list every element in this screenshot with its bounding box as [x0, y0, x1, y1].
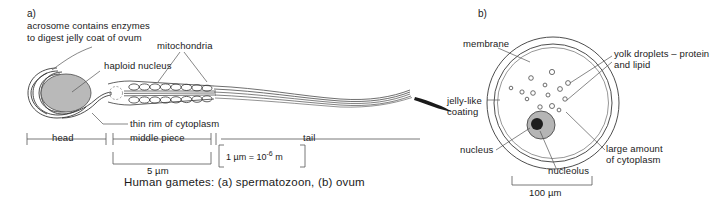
five-micrometre-scale-bar: [113, 152, 211, 164]
acrosome-leader-line: [52, 47, 92, 70]
ovum-nucleus-label: nucleus: [460, 144, 493, 156]
hundred-micrometre-scale-bar: [512, 176, 592, 185]
axoneme-lines: [124, 91, 216, 96]
yolk-leader-line-upper: [570, 56, 612, 83]
mitochondria-label: mitochondria: [157, 40, 213, 52]
five-micrometre-label: 5 µm: [147, 165, 169, 177]
yolk-label-line2: and lipid: [614, 59, 650, 71]
scale-note-suffix: m: [273, 152, 283, 162]
cytoplasm-label-line2: of cytoplasm: [606, 154, 661, 166]
yolk-label-line1: yolk droplets – protein: [614, 48, 709, 60]
ovum-nucleolus-shape: [531, 118, 543, 130]
mitochondria-upper-row: [129, 84, 212, 91]
thin-rim-label: thin rim of cytoplasm: [130, 118, 219, 130]
acrosome-label-line2: to digest jelly coat of ovum: [27, 32, 142, 44]
mitochondria-leader-line-right: [184, 52, 207, 82]
spermatozoon-diagram: [27, 47, 420, 167]
middle-piece-region-label: middle piece: [130, 132, 185, 144]
haploid-nucleus-shape: [41, 74, 91, 112]
jelly-coating-label-line2: coating: [447, 106, 478, 118]
panel-b-id: b): [478, 8, 487, 19]
scale-note-prefix: 1 µm = 10: [226, 152, 266, 162]
ovum-nucleolus-label: nucleolus: [548, 165, 589, 177]
yolk-droplets: [509, 69, 570, 112]
cytoplasm-leader-line: [566, 112, 605, 150]
ovum-diagram: [487, 37, 619, 185]
thin-rim-leader-line: [92, 113, 103, 124]
membrane-circle: [494, 44, 612, 162]
figure-caption: Human gametes: (a) spermatozoon, (b) ovu…: [124, 176, 365, 188]
panel-a-id: a): [27, 8, 36, 19]
haploid-nucleus-label: haploid nucleus: [104, 60, 172, 72]
cytoplasm-circle: [498, 48, 609, 159]
acrosome-label-line1: acrosome contains enzymes: [27, 20, 150, 32]
membrane-label: membrane: [463, 38, 509, 50]
jelly-coat-outer-circle: [487, 37, 619, 169]
tail-strands: [214, 86, 412, 107]
scale-note: 1 µm = 10-6 m: [226, 150, 283, 162]
head-region-label: head: [52, 132, 74, 144]
hundred-micrometre-label: 100 µm: [529, 187, 561, 199]
jelly-coating-label-line1: jelly-like: [447, 95, 482, 107]
cytoplasm-label-line1: large amount: [606, 143, 663, 155]
tail-region-label: tail: [303, 132, 316, 144]
